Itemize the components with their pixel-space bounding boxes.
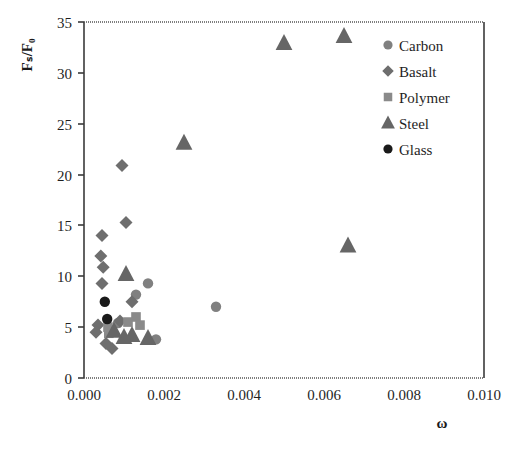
legend-label: Steel [399,116,429,132]
y-tick-label: 15 [57,218,72,234]
y-tick-label: 30 [57,66,72,82]
x-tick-label: 0.002 [147,387,181,403]
x-tick-label: 0.006 [307,387,341,403]
data-point-polymer [135,320,145,330]
data-point-carbon [211,302,221,312]
legend-marker-carbon [383,40,392,49]
chart-svg: 0 5 10 15 20 25 30 35 0.000 0.002 0.004 … [0,0,524,463]
x-tick-label: 0.000 [67,387,101,403]
legend-label: Glass [399,142,432,158]
y-axis-title-group: Fₛ/F₀ [19,38,35,71]
data-point-carbon [143,278,153,288]
legend-marker-polymer [384,93,393,102]
data-point-glass [100,297,110,307]
y-tick-label: 35 [57,15,72,31]
x-tick-label: 0.010 [467,387,501,403]
x-axis-title: ω [437,415,448,431]
y-tick-label: 0 [65,371,73,387]
y-axis-title: Fₛ/F₀ [19,38,35,71]
legend-marker-glass [383,144,392,153]
x-tick-label: 0.004 [227,387,261,403]
y-tick-label: 5 [65,320,73,336]
data-point-polymer [123,317,133,327]
y-tick-label: 20 [57,168,72,184]
scatter-chart-figure: 0 5 10 15 20 25 30 35 0.000 0.002 0.004 … [0,0,524,463]
legend-label: Polymer [399,90,450,106]
legend-label: Carbon [399,38,444,54]
data-point-glass [102,314,112,324]
x-tick-label: 0.008 [387,387,421,403]
y-tick-label: 10 [57,269,72,285]
y-tick-label: 25 [57,117,72,133]
legend-label: Basalt [399,64,437,80]
